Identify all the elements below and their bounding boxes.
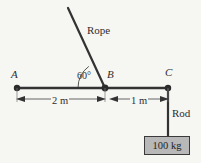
point-label-b: B bbox=[107, 69, 114, 80]
dimension-label-2m: 2 m bbox=[51, 96, 69, 107]
rope-label: Rope bbox=[87, 25, 110, 36]
angle-label: 60° bbox=[77, 71, 91, 81]
point-label-a: A bbox=[11, 69, 18, 80]
dimension-label-1m: 1 m bbox=[130, 96, 148, 107]
physics-diagram: A B C Rope Rod 60° 2 m 1 m 100 kg bbox=[0, 0, 201, 163]
rod-label: Rod bbox=[172, 108, 190, 119]
mass-block: 100 kg bbox=[144, 136, 190, 155]
mass-label: 100 kg bbox=[153, 140, 182, 151]
dimension-arrow-1m-left bbox=[109, 96, 118, 102]
point-label-c: C bbox=[165, 67, 172, 78]
